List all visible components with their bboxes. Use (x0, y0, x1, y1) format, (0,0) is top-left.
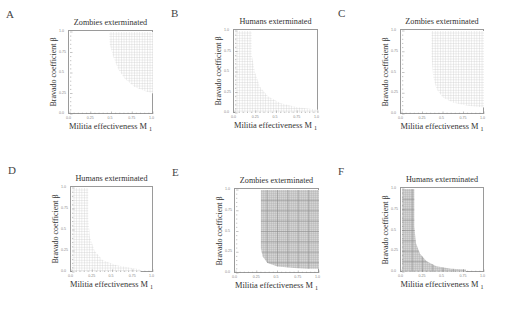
y-tick-label: 1.0 (59, 29, 64, 33)
plot-area (400, 29, 484, 114)
x-tick-label: 0.0 (232, 275, 237, 279)
y-tick-label: 0.75 (225, 208, 232, 212)
x-axis-label-text: Militia effectiveness M (400, 122, 478, 131)
y-tick-label: 1.0 (61, 185, 66, 189)
x-axis-label-text: Militia effectiveness M (234, 121, 312, 130)
y-axis-label: Bravado coefficient β (214, 36, 223, 105)
region-plot (71, 187, 154, 273)
y-axis-label: Bravado coefficient β (381, 37, 390, 106)
panel-letter: C (338, 7, 345, 19)
y-tick-label: 0.25 (224, 90, 231, 94)
panel-title: Humans exterminated (239, 17, 311, 26)
x-tick-label: 1.0 (315, 275, 320, 279)
x-tick-label: 0.25 (252, 115, 259, 119)
x-tick-label: 0.25 (87, 116, 94, 120)
x-tick-label: 0.25 (88, 274, 95, 278)
x-tick-label: 0.25 (419, 274, 426, 278)
region-plot (401, 188, 485, 273)
panel-letter: A (6, 8, 14, 20)
x-tick-label: 0.25 (253, 275, 260, 279)
x-tick-label: 0.75 (294, 275, 301, 279)
x-axis-label: Militia effectiveness M 1 (69, 122, 152, 132)
plot-area (400, 187, 484, 272)
y-tick-label: 0.0 (224, 110, 229, 114)
y-tick-label: 0.75 (391, 207, 398, 211)
x-tick-label: 0.75 (460, 116, 467, 120)
y-tick-label: 0.75 (391, 49, 398, 53)
panel-letter: D (8, 164, 16, 176)
panel-title: Zombies exterminated (405, 17, 478, 26)
x-axis-label-text: Militia effectiveness M (235, 281, 313, 290)
y-tick-label: 0.0 (59, 111, 64, 115)
y-tick-label: 0.0 (61, 269, 66, 273)
x-axis-label: Militia effectiveness M 1 (234, 121, 317, 131)
x-tick-label: 1.0 (480, 274, 485, 278)
y-tick-label: 0.5 (391, 228, 396, 232)
y-tick-label: 0.75 (59, 50, 66, 54)
y-tick-label: 0.0 (391, 269, 396, 273)
y-tick-label: 0.5 (391, 70, 396, 74)
x-tick-label: 0.75 (460, 274, 467, 278)
x-axis-label: Militia effectiveness M 1 (400, 122, 483, 132)
x-axis-label: Militia effectiveness M 1 (70, 280, 153, 290)
x-tick-label: 0.5 (109, 274, 114, 278)
x-tick-label: 0.5 (273, 115, 278, 119)
x-tick-label: 0.5 (274, 275, 279, 279)
x-axis-label: Militia effectiveness M 1 (235, 281, 318, 291)
x-tick-label: 0.5 (439, 274, 444, 278)
x-tick-label: 0.0 (231, 115, 236, 119)
x-tick-label: 0.5 (108, 116, 113, 120)
y-tick-label: 0.5 (59, 70, 64, 74)
plot-area (234, 188, 319, 273)
y-tick-label: 1.0 (225, 187, 230, 191)
region-plot (234, 30, 319, 114)
x-tick-label: 0.25 (419, 116, 426, 120)
x-axis-label-subscript: 1 (150, 284, 153, 290)
y-tick-label: 0.5 (225, 229, 230, 233)
x-axis-label-text: Militia effectiveness M (69, 122, 147, 131)
y-tick-label: 0.25 (391, 248, 398, 252)
x-tick-label: 1.0 (480, 116, 485, 120)
x-axis-label-subscript: 1 (149, 126, 152, 132)
x-tick-label: 0.0 (398, 116, 403, 120)
x-tick-label: 1.0 (314, 115, 319, 119)
y-tick-label: 0.25 (391, 90, 398, 94)
region-plot (235, 189, 320, 274)
x-axis-label-text: Militia effectiveness M (400, 280, 478, 289)
x-tick-label: 0.75 (128, 116, 135, 120)
plot-area (68, 30, 153, 114)
y-axis-label: Bravado coefficient β (51, 194, 60, 263)
y-axis-label: Bravado coefficient β (215, 196, 224, 265)
y-tick-label: 0.25 (225, 249, 232, 253)
region-plot (69, 31, 154, 115)
y-axis-label: Bravado coefficient β (49, 37, 58, 106)
plot-area (70, 186, 153, 272)
plot-area (233, 29, 318, 113)
y-tick-label: 0.75 (224, 49, 231, 53)
panel-letter: F (338, 165, 344, 177)
x-tick-label: 0.0 (68, 274, 73, 278)
x-axis-label-text: Militia effectiveness M (70, 280, 148, 289)
panel-letter: B (171, 7, 178, 19)
x-tick-label: 0.5 (439, 116, 444, 120)
y-tick-label: 1.0 (391, 28, 396, 32)
x-axis-label-subscript: 1 (481, 284, 484, 290)
panel-letter: E (172, 166, 179, 178)
panel-title: Zombies exterminated (74, 18, 147, 27)
y-tick-label: 1.0 (224, 28, 229, 32)
panel-title: Zombies exterminated (240, 176, 313, 185)
y-tick-label: 0.0 (225, 270, 230, 274)
y-tick-label: 1.0 (391, 186, 396, 190)
x-tick-label: 1.0 (149, 116, 154, 120)
x-tick-label: 0.75 (293, 115, 300, 119)
x-tick-label: 0.0 (66, 116, 71, 120)
x-tick-label: 1.0 (149, 274, 154, 278)
y-tick-label: 0.0 (391, 111, 396, 115)
panel-title: Humans exterminated (75, 174, 147, 183)
x-tick-label: 0.75 (129, 274, 136, 278)
y-tick-label: 0.25 (59, 91, 66, 95)
x-axis-label-subscript: 1 (314, 125, 317, 131)
y-tick-label: 0.75 (61, 206, 68, 210)
x-axis-label-subscript: 1 (315, 285, 318, 291)
y-axis-label: Bravado coefficient β (381, 195, 390, 264)
